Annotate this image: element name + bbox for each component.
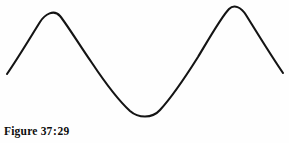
figure-caption-label: Figure bbox=[4, 125, 38, 137]
figure-container: Figure 37:29 bbox=[0, 0, 289, 143]
figure-background bbox=[0, 0, 289, 143]
figure-caption-subnumber: 29 bbox=[58, 125, 70, 137]
figure-caption-number: 37 bbox=[41, 125, 53, 137]
sine-wave-figure bbox=[0, 0, 289, 143]
figure-caption: Figure 37:29 bbox=[4, 124, 70, 138]
